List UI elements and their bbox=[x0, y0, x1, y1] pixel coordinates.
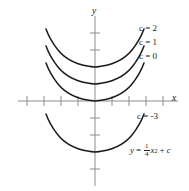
y-axis-label: y bbox=[92, 7, 96, 17]
curve-label-c1: c = 1 bbox=[139, 38, 157, 47]
equation-lhs: y bbox=[130, 146, 134, 155]
plot-canvas bbox=[0, 0, 189, 191]
equation-equals: = bbox=[136, 146, 141, 155]
equation-label: y = 1 4 x 2 + c bbox=[130, 143, 171, 159]
equation-constant: c bbox=[167, 146, 171, 155]
parabola-family-figure: y x c = 2 c = 1 c = 0 c = -3 y = 1 4 x 2… bbox=[0, 0, 189, 191]
equation-variable: x bbox=[151, 146, 155, 155]
x-axis-label: x bbox=[172, 94, 176, 104]
fraction-denominator: 4 bbox=[144, 151, 150, 158]
curve-label-c0: c = 0 bbox=[139, 52, 157, 61]
equation-fraction: 1 4 bbox=[144, 143, 150, 159]
curve-label-c2: c = 2 bbox=[139, 24, 157, 33]
equation-plus: + bbox=[160, 146, 165, 155]
curve-label-c-minus-3: c = -3 bbox=[137, 112, 158, 121]
